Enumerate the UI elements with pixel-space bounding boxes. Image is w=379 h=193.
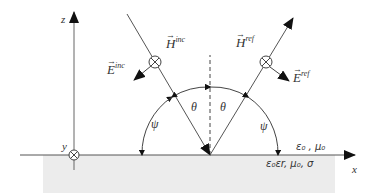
reflection-diagram: z x y →Hinc →Einc →Href →Eref θ θ ψ ψ ε₀… <box>0 0 379 193</box>
psi-right-label: ψ <box>260 120 267 132</box>
reflected-h-label: →Href <box>236 35 254 49</box>
reflected-h-field-icon <box>260 56 272 68</box>
reflected-e-label: →Eref <box>293 70 310 84</box>
z-axis-label: z <box>61 14 65 25</box>
theta-right-arc <box>210 87 248 97</box>
incident-e-vector <box>134 66 151 80</box>
x-axis-label: x <box>352 164 357 175</box>
reflected-e-vector <box>270 67 289 81</box>
incident-e-label: →Einc <box>107 62 125 76</box>
lower-medium-label: ε₀εr, μ₀, σ <box>266 159 313 169</box>
theta-right-label: θ <box>220 101 226 113</box>
incident-h-label: →Hinc <box>166 36 185 50</box>
psi-left-label: ψ <box>151 118 158 130</box>
theta-left-label: θ <box>191 101 197 113</box>
theta-left-arc <box>172 87 210 97</box>
y-axis-label: y <box>62 141 67 152</box>
diagram-graphics <box>0 0 379 193</box>
y-axis-into-page-icon <box>69 150 79 160</box>
upper-medium-label: ε₀ , μ₀ <box>296 142 325 152</box>
